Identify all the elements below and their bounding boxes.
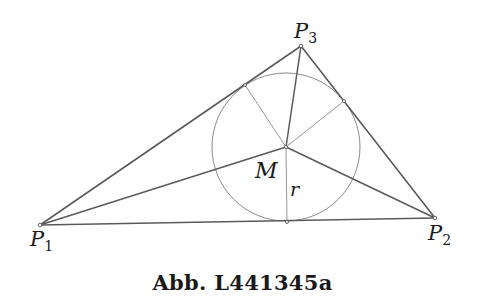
label-p3: P3 — [293, 19, 317, 46]
label-r: r — [290, 178, 301, 200]
edge-p1-p2 — [40, 218, 435, 225]
radius-r — [286, 147, 287, 222]
bisector-p1-m — [40, 147, 286, 225]
radius-to-t13 — [245, 85, 286, 147]
label-p2: P2 — [427, 221, 451, 248]
label-m: M — [254, 158, 278, 183]
tangent-point-p1p3 — [244, 84, 247, 87]
radius-to-t23 — [286, 101, 344, 147]
vertex-p2-marker — [433, 216, 437, 220]
figure-caption: Abb. L441345a — [0, 270, 485, 295]
vertex-p3-marker — [299, 44, 303, 48]
tangent-point-p1p2 — [286, 221, 289, 224]
edge-p1-p3 — [40, 46, 301, 225]
incircle-diagram: P3 P1 P2 M r — [0, 0, 485, 303]
edge-p2-p3 — [301, 46, 435, 218]
center-m-marker — [284, 145, 287, 148]
bisector-p3-m — [286, 46, 301, 147]
tangent-point-p2p3 — [343, 100, 346, 103]
label-p1: P1 — [29, 227, 53, 254]
bisector-p2-m — [286, 147, 435, 218]
